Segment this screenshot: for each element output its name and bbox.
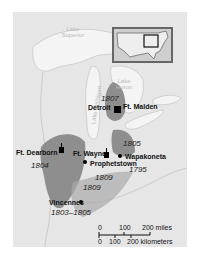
year-1809-b: 1809 (83, 184, 101, 192)
scale-mi-100: 100 (119, 224, 131, 231)
scale-mi-0: 0 (98, 224, 102, 231)
year-1795: 1795 (129, 166, 147, 174)
label-ft-wayne: Ft. Wayne (73, 150, 106, 157)
scale-mi-200: 200 miles (142, 224, 172, 231)
us-locator-inset (112, 27, 173, 63)
year-1803-1805: 1803–1805 (51, 209, 91, 217)
year-1804: 1804 (31, 162, 49, 170)
us-outline-icon (114, 29, 171, 61)
label-ft-malden: Ft. Malden (123, 103, 158, 110)
year-1809-a: 1809 (95, 174, 113, 182)
year-1805: 1805 (123, 140, 141, 148)
scale-km-100: 100 (109, 238, 121, 245)
label-detroit: Detroit (88, 104, 111, 111)
scale-km-0: 0 (98, 238, 102, 245)
fort-icon (58, 143, 65, 153)
label-lake-huron: Lake Huron (113, 78, 135, 90)
label-lake-superior: Lake Superior (59, 26, 87, 38)
label-wapakoneta: Wapakoneta (125, 153, 166, 160)
label-ft-dearborn: Ft. Dearborn (16, 149, 58, 156)
fort-icon (114, 103, 121, 113)
year-1807: 1807 (101, 95, 119, 103)
label-vincennes: Vincennes (49, 199, 84, 206)
map-frame: Lake Superior Lake Michigan Lake Huron F… (13, 12, 187, 247)
town-dot (83, 160, 87, 164)
scale-km-200: 200 kilometers (127, 238, 173, 245)
scale-bar: 0 100 200 miles 0 100 200 kilometers (98, 224, 187, 246)
town-dot (118, 154, 122, 158)
